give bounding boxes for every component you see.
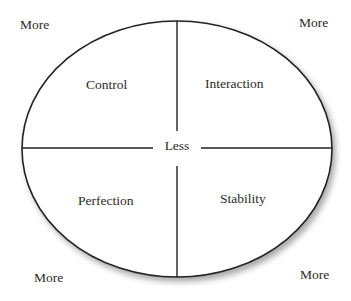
quadrant-label-perfection: Perfection [78,194,133,208]
corner-label-top-right: More [299,16,328,30]
corner-label-top-left: More [20,18,49,32]
corner-label-bottom-right: More [300,268,329,282]
quadrant-label-stability: Stability [220,192,266,206]
corner-label-bottom-left: More [34,271,63,285]
quadrant-label-interaction: Interaction [205,77,263,91]
quadrant-diagram: More More More More Control Interaction … [0,0,351,301]
quadrant-label-control: Control [86,78,127,92]
center-label-less: Less [165,139,190,153]
